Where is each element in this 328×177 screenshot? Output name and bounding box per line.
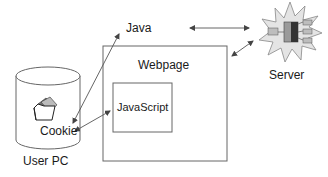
java-label: Java: [126, 22, 151, 34]
user-pc-label: User PC: [23, 155, 68, 167]
arrow-server-webpage: [232, 41, 253, 56]
diagram-canvas: [0, 0, 328, 177]
cookie-label: Cookie: [40, 125, 77, 137]
server-starburst-icon: [259, 2, 322, 62]
webpage-label: Webpage: [138, 59, 189, 71]
server-label: Server: [269, 69, 304, 81]
javascript-label: JavaScript: [117, 102, 168, 113]
